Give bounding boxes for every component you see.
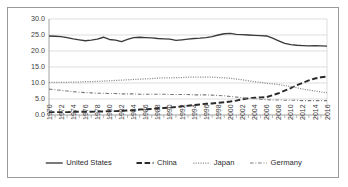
x-tick-label: 1986 — [142, 104, 149, 120]
x-tick-label: 2006 — [263, 104, 270, 120]
legend-label-china[interactable]: China — [157, 158, 178, 167]
y-tick-label: 0.0 — [35, 110, 45, 119]
x-tick-label: 1998 — [215, 104, 222, 120]
chart-canvas: 0.05.010.015.020.025.030.019701972197419… — [8, 8, 338, 177]
x-tick-label: 2002 — [239, 104, 246, 120]
x-tick-label: 1988 — [154, 104, 161, 120]
x-tick-label: 2012 — [299, 104, 306, 120]
x-tick-label: 1984 — [130, 104, 137, 120]
line-chart: 0.05.010.015.020.025.030.019701972197419… — [8, 8, 338, 177]
x-tick-label: 2000 — [227, 104, 234, 120]
y-tick-label: 15.0 — [31, 62, 45, 71]
series-line-united-states — [49, 33, 327, 46]
legend-label-united-states[interactable]: United States — [66, 158, 112, 167]
x-tick-label: 2010 — [287, 104, 294, 120]
x-tick-label: 2004 — [251, 104, 258, 120]
x-tick-label: 1996 — [203, 104, 210, 120]
x-tick-label: 2016 — [324, 104, 331, 120]
x-tick-label: 1982 — [118, 104, 125, 120]
y-tick-label: 25.0 — [31, 30, 45, 39]
x-tick-label: 2008 — [275, 104, 282, 120]
y-tick-label: 10.0 — [31, 78, 45, 87]
legend-label-japan[interactable]: Japan — [214, 158, 235, 167]
y-tick-label: 30.0 — [31, 14, 45, 23]
y-tick-label: 20.0 — [31, 46, 45, 55]
x-tick-label: 1994 — [191, 104, 198, 120]
legend-label-germany[interactable]: Germany — [271, 158, 302, 167]
x-tick-label: 2014 — [312, 104, 319, 120]
chart-card: 0.05.010.015.020.025.030.019701972197419… — [7, 7, 339, 178]
y-tick-label: 5.0 — [35, 94, 45, 103]
